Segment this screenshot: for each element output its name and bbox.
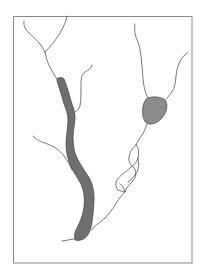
vessel-diagram bbox=[0, 0, 202, 276]
diagram-frame bbox=[14, 17, 193, 264]
diagram-canvas: vessel-schematic bbox=[0, 0, 202, 276]
